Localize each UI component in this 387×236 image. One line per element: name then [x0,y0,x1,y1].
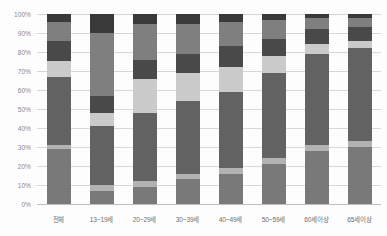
bar-segment[interactable] [47,61,71,76]
bar-segment[interactable] [348,48,372,141]
bar-column[interactable] [166,14,209,204]
bar-segment[interactable] [90,126,114,185]
bar-segment[interactable] [348,27,372,40]
x-axis-tick-label: 13~19세 [80,206,123,230]
bar-segment[interactable] [262,56,286,73]
bar-segment[interactable] [262,73,286,159]
x-axis-tick-label: 40~49세 [209,206,252,230]
stacked-bar[interactable] [47,14,71,204]
y-axis-tick-label: 10% [18,182,31,189]
bar-group [37,14,381,204]
bar-segment[interactable] [47,22,71,41]
stacked-bar[interactable] [262,14,286,204]
bar-segment[interactable] [305,54,329,145]
bar-segment[interactable] [348,147,372,204]
bar-segment[interactable] [348,18,372,28]
bar-segment[interactable] [133,113,157,181]
bar-segment[interactable] [176,14,200,24]
stacked-bar[interactable] [176,14,200,204]
x-axis-tick-label: 65세이상 [338,206,381,230]
bar-segment[interactable] [262,20,286,39]
bar-segment[interactable] [305,29,329,44]
bar-segment[interactable] [176,54,200,73]
y-axis-tick-label: 70% [18,68,31,75]
stacked-bar[interactable] [219,14,243,204]
bar-segment[interactable] [348,41,372,49]
y-axis-tick-label: 30% [18,144,31,151]
bar-segment[interactable] [133,187,157,204]
bar-segment[interactable] [219,22,243,47]
gridline [37,204,381,205]
bar-segment[interactable] [90,113,114,126]
bar-segment[interactable] [176,73,200,102]
bar-column[interactable] [80,14,123,204]
stacked-bar[interactable] [90,14,114,204]
bar-segment[interactable] [219,14,243,22]
bar-segment[interactable] [219,46,243,67]
bar-segment[interactable] [305,18,329,29]
bar-segment[interactable] [47,41,71,62]
x-axis-tick-label: 30~39세 [166,206,209,230]
bar-segment[interactable] [47,77,71,145]
bar-segment[interactable] [47,149,71,204]
bar-segment[interactable] [90,33,114,96]
bar-segment[interactable] [133,24,157,60]
bar-segment[interactable] [219,67,243,92]
y-axis-tick-label: 40% [18,125,31,132]
bar-segment[interactable] [219,92,243,168]
stacked-bar[interactable] [305,14,329,204]
bar-segment[interactable] [262,39,286,56]
bar-segment[interactable] [262,164,286,204]
y-axis-tick-label: 50% [18,106,31,113]
x-axis-tick-label: 20~29세 [123,206,166,230]
bar-segment[interactable] [90,191,114,204]
plot-area [37,14,381,204]
bar-column[interactable] [209,14,252,204]
bar-column[interactable] [123,14,166,204]
y-axis-tick-label: 60% [18,87,31,94]
bar-column[interactable] [252,14,295,204]
bar-column[interactable] [37,14,80,204]
bar-segment[interactable] [133,60,157,79]
y-axis-tick-label: 20% [18,163,31,170]
bar-column[interactable] [295,14,338,204]
bar-segment[interactable] [305,151,329,204]
bar-segment[interactable] [176,179,200,204]
bar-segment[interactable] [90,14,114,33]
x-axis-tick-label: 50~59세 [252,206,295,230]
bar-segment[interactable] [47,14,71,22]
bar-segment[interactable] [133,14,157,24]
x-axis: 전체13~19세20~29세30~39세40~49세50~59세60세이상65세… [37,206,381,230]
stacked-bar-chart: 0%10%20%30%40%50%60%70%80%90%100% 전체13~1… [0,0,387,236]
y-axis: 0%10%20%30%40%50%60%70%80%90%100% [0,14,35,204]
bar-segment[interactable] [176,24,200,54]
x-axis-tick-label: 전체 [37,206,80,230]
bar-column[interactable] [338,14,381,204]
bar-segment[interactable] [219,174,243,204]
y-axis-tick-label: 90% [18,30,31,37]
bar-segment[interactable] [176,101,200,173]
bar-segment[interactable] [90,96,114,113]
bar-segment[interactable] [305,44,329,54]
y-axis-tick-label: 0% [21,201,31,208]
stacked-bar[interactable] [133,14,157,204]
x-axis-tick-label: 60세이상 [295,206,338,230]
y-axis-tick-label: 80% [18,49,31,56]
bar-segment[interactable] [133,79,157,113]
stacked-bar[interactable] [348,14,372,204]
y-axis-tick-label: 100% [14,11,31,18]
